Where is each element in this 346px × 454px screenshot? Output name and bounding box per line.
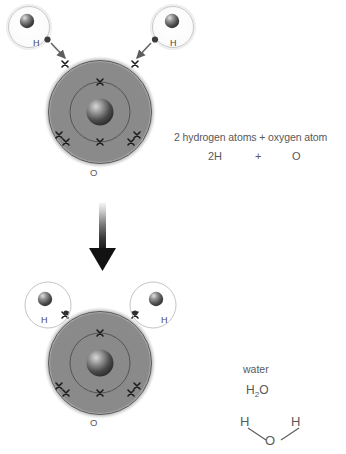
hydrogen-electron-dot xyxy=(63,310,68,315)
oxygen-label-top: O xyxy=(90,167,97,178)
hydrogen-nucleus xyxy=(149,292,163,306)
hydrogen-atom-bottom-right xyxy=(130,282,176,328)
hydrogen-electron-dot xyxy=(152,36,158,42)
product-formula-o: O xyxy=(259,383,268,397)
structural-oxygen: O xyxy=(265,433,275,448)
oxygen-nucleus xyxy=(87,99,114,126)
hydrogen-electron-dot xyxy=(44,36,50,42)
diagram-canvas: O H H 2 hydrogen atoms + oxygen atom 2H … xyxy=(0,0,346,454)
top-oxygen-atom xyxy=(44,56,156,168)
hydrogen-label-bottom-right: H xyxy=(161,315,168,325)
electron-transfer-arrow-right xyxy=(137,43,151,58)
hydrogen-label-bottom-left: H xyxy=(41,315,48,325)
structural-hydrogen-right: H xyxy=(291,414,300,429)
oxygen-label-bottom: O xyxy=(90,417,97,428)
water-formation-illustration xyxy=(0,0,346,454)
reactants-caption: 2 hydrogen atoms + oxygen atom xyxy=(174,131,327,143)
equation-reactant-hydrogen: 2H xyxy=(208,150,222,162)
product-caption: water xyxy=(243,363,269,375)
hydrogen-atom-bottom-left xyxy=(25,282,71,328)
hydrogen-electron-dot xyxy=(132,310,137,315)
hydrogen-label-top-left: H xyxy=(33,38,40,48)
hydrogen-nucleus xyxy=(165,14,179,28)
product-formula-subscript: 2 xyxy=(255,390,259,399)
electron-transfer-arrow-left xyxy=(51,43,65,58)
hydrogen-atom-top-left xyxy=(6,4,52,50)
equation-plus-operator: + xyxy=(255,150,261,162)
product-formula-h: H xyxy=(246,383,255,397)
hydrogen-label-top-right: H xyxy=(170,38,177,48)
hydrogen-nucleus xyxy=(38,292,52,306)
equation-reactant-oxygen: O xyxy=(292,150,301,162)
downward-arrow-icon xyxy=(89,203,116,271)
hydrogen-nucleus xyxy=(20,14,34,28)
product-formula: H2O xyxy=(246,383,268,397)
oxygen-nucleus xyxy=(87,350,114,377)
structural-hydrogen-left: H xyxy=(240,414,249,429)
